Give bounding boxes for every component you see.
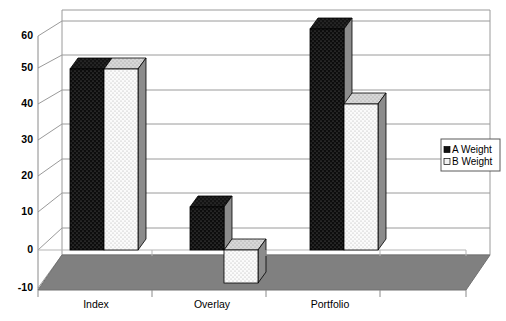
legend-swatch-a-weight-icon [444, 147, 450, 153]
x-axis-category-labels: Index Overlay Portfolio [83, 298, 349, 310]
x-label-portfolio: Portfolio [311, 298, 350, 310]
y-tick-neg10: -10 [18, 281, 33, 293]
y-tick-30: 30 [21, 133, 33, 145]
y-tick-50: 50 [21, 61, 33, 73]
x-label-overlay: Overlay [194, 298, 231, 310]
bar-overlay-a-weight[interactable] [190, 196, 232, 250]
legend-entry-b-weight[interactable]: B Weight [444, 156, 493, 167]
chart-container: 60 50 40 30 20 10 0 -10 [0, 0, 506, 321]
x-label-index: Index [83, 298, 109, 310]
y-tick-20: 20 [21, 169, 33, 181]
legend-entry-a-weight[interactable]: A Weight [444, 144, 492, 155]
legend-label-a-weight: A Weight [452, 144, 492, 155]
y-axis-tick-labels: 60 50 40 30 20 10 0 -10 [18, 29, 33, 293]
bar-index-b-weight[interactable] [104, 58, 146, 250]
y-tick-40: 40 [21, 97, 33, 109]
chart-legend[interactable]: A Weight B Weight [441, 139, 500, 171]
bar-overlay-b-weight[interactable] [224, 239, 266, 283]
y-tick-60: 60 [21, 29, 33, 41]
y-tick-10: 10 [21, 205, 33, 217]
legend-label-b-weight: B Weight [452, 156, 493, 167]
y-tick-0: 0 [27, 243, 33, 255]
bar-portfolio-b-weight[interactable] [344, 93, 386, 250]
column-chart-3d: 60 50 40 30 20 10 0 -10 [0, 0, 506, 321]
legend-swatch-b-weight-icon [444, 159, 450, 165]
